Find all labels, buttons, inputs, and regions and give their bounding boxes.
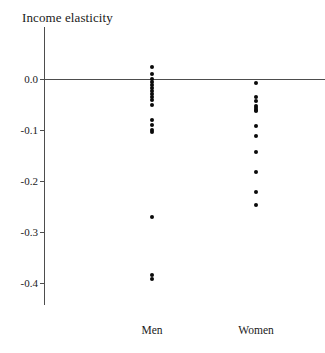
data-point — [254, 203, 258, 207]
x-category-label-men: Men — [141, 325, 162, 337]
y-tick-label-wrap: -0.4 — [0, 278, 38, 289]
y-tick-label-wrap: -0.1 — [0, 125, 38, 136]
data-point — [254, 124, 258, 128]
data-point — [254, 81, 258, 85]
x-category-label-women: Women — [238, 325, 273, 337]
data-point — [254, 109, 258, 113]
y-tick-mark — [40, 79, 45, 80]
data-point — [150, 65, 154, 69]
y-tick-label-wrap: -0.3 — [0, 227, 38, 238]
data-point — [254, 99, 258, 103]
data-point — [150, 123, 154, 127]
y-tick-label: -0.1 — [21, 125, 38, 136]
page-title: Income elasticity — [22, 10, 113, 26]
data-point — [254, 134, 258, 138]
y-tick-mark — [40, 283, 45, 284]
y-tick-mark — [40, 181, 45, 182]
data-point — [150, 277, 154, 281]
y-tick-mark — [40, 232, 45, 233]
y-tick-mark — [40, 130, 45, 131]
y-tick-label: 0.0 — [24, 74, 38, 85]
data-point — [150, 103, 154, 107]
data-point — [150, 72, 154, 76]
y-tick-label: -0.3 — [21, 227, 38, 238]
y-axis-line — [44, 27, 45, 305]
data-point — [150, 130, 154, 134]
zero-reference-line — [44, 79, 325, 80]
data-point — [150, 118, 154, 122]
y-tick-label-wrap: 0.0 — [0, 74, 38, 85]
y-tick-label-wrap: -0.2 — [0, 176, 38, 187]
data-point — [254, 170, 258, 174]
data-point — [150, 98, 154, 102]
data-point — [150, 215, 154, 219]
y-tick-label: -0.2 — [21, 176, 38, 187]
data-point — [254, 190, 258, 194]
data-point — [254, 150, 258, 154]
scatter-chart: Income elasticity 0.0-0.1-0.2-0.3-0.4 Me… — [0, 0, 325, 353]
y-tick-label: -0.4 — [21, 278, 38, 289]
